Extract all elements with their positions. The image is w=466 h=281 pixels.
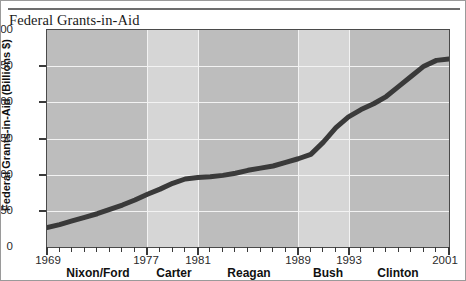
y-tick-label-50: 50: [0, 204, 13, 216]
x-tick-mark-1985: [247, 247, 248, 252]
x-tick-mark-1973: [96, 247, 97, 252]
x-tick-mark-2000: [435, 247, 436, 252]
administration-label-clinton: Clinton: [377, 266, 418, 280]
data-series-line: [47, 30, 449, 247]
x-tick-mark-1979: [172, 247, 173, 252]
plot-area: [46, 29, 450, 248]
y-tick-label-250: 250: [0, 59, 13, 71]
x-tick-label-1993: 1993: [336, 254, 362, 266]
x-tick-mark-1996: [385, 247, 386, 252]
x-tick-mark-1972: [84, 247, 85, 252]
x-tick-mark-1975: [121, 247, 122, 252]
y-tick-label-0: 0: [0, 240, 13, 252]
x-tick-mark-1974: [109, 247, 110, 252]
x-tick-mark-1998: [410, 247, 411, 252]
x-tick-label-1977: 1977: [133, 254, 159, 266]
y-tick-label-200: 200: [0, 95, 13, 107]
x-tick-mark-1990: [310, 247, 311, 252]
x-tick-mark-1984: [234, 247, 235, 252]
x-tick-mark-1997: [398, 247, 399, 252]
chart-figure: Federal Grants-in-Aid Federal Grants-in-…: [0, 0, 466, 281]
x-tick-mark-1987: [272, 247, 273, 252]
x-tick-mark-1980: [184, 247, 185, 252]
x-tick-mark-1994: [360, 247, 361, 252]
x-tick-mark-1991: [322, 247, 323, 252]
x-tick-label-1989: 1989: [285, 254, 311, 266]
administration-label-carter: Carter: [156, 266, 191, 280]
y-tick-label-100: 100: [0, 168, 13, 180]
y-tick-label-300: 300: [0, 23, 13, 35]
x-tick-mark-1999: [423, 247, 424, 252]
x-tick-mark-1970: [59, 247, 60, 252]
page-title: Federal Grants-in-Aid: [9, 12, 140, 29]
x-tick-mark-1995: [373, 247, 374, 252]
x-tick-label-1969: 1969: [35, 254, 61, 266]
administration-label-bush: Bush: [313, 266, 343, 280]
x-tick-mark-1988: [285, 247, 286, 252]
x-tick-mark-1982: [209, 247, 210, 252]
header-rule: [8, 8, 460, 10]
x-tick-mark-1986: [260, 247, 261, 252]
y-tick-label-150: 150: [0, 132, 13, 144]
x-tick-mark-1971: [71, 247, 72, 252]
x-tick-label-2001: 2001: [432, 254, 458, 266]
x-tick-label-1981: 1981: [185, 254, 211, 266]
x-tick-mark-1978: [159, 247, 160, 252]
administration-label-nixon-ford: Nixon/Ford: [66, 266, 129, 280]
x-tick-mark-1983: [222, 247, 223, 252]
x-tick-mark-1992: [335, 247, 336, 252]
administration-label-reagan: Reagan: [227, 266, 270, 280]
x-tick-mark-1976: [134, 247, 135, 252]
